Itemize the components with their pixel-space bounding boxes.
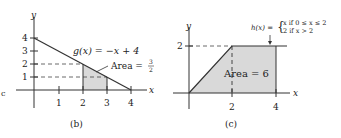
- x-label-b: x: [149, 85, 154, 95]
- figure: c y x 4 3 2 1 1 2 3 4 g(x): [0, 0, 341, 138]
- panel-b: y x 4 3 2 1 1 2 3 4 g(x) = −x + 4 Area =…: [16, 10, 154, 129]
- h-label: h(x) =: [251, 24, 273, 32]
- svg-text:2: 2: [80, 98, 86, 108]
- svg-text:4: 4: [22, 33, 28, 43]
- svg-text:2: 2: [229, 102, 235, 112]
- area-pointer-b: [96, 66, 108, 72]
- svg-text:3: 3: [149, 58, 153, 65]
- svg-text:4: 4: [273, 102, 279, 112]
- panel-label-c: (c): [225, 119, 237, 129]
- h-case-1: x if 0 ≤ x ≤ 2: [283, 19, 326, 27]
- svg-text:1: 1: [22, 72, 28, 82]
- svg-text:4: 4: [128, 98, 134, 108]
- svg-text:1: 1: [56, 98, 62, 108]
- g-label: g(x) = −x + 4: [73, 45, 139, 56]
- svg-text:2: 2: [22, 59, 28, 69]
- svg-text:2: 2: [149, 66, 153, 73]
- area-label-c: Area = 6: [223, 68, 269, 79]
- y-label-c: y: [185, 21, 192, 31]
- stray-mark: c: [1, 89, 6, 98]
- svg-text:2: 2: [177, 41, 183, 51]
- area-label-b: Area =: [110, 61, 143, 71]
- panel-c: y x 2 2 4 Area = 6 h(x) = { x if 0 ≤ x ≤…: [173, 19, 326, 129]
- y-label-b: y: [30, 10, 37, 20]
- svg-text:3: 3: [22, 46, 28, 56]
- x-label-c: x: [293, 88, 298, 98]
- panel-label-b: (b): [70, 119, 83, 129]
- h-case-2: 2 if x > 2: [283, 27, 313, 35]
- svg-text:3: 3: [104, 98, 110, 108]
